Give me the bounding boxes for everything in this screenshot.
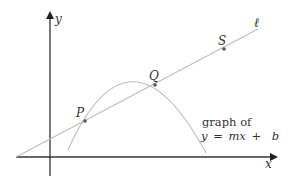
coordinate-diagram: y x ℓ P Q S graph of y = mx + b: [0, 0, 288, 180]
y-axis-label: y: [54, 12, 62, 26]
line-l-label: ℓ: [254, 15, 260, 30]
annotation-line2: y = mx + b: [200, 129, 279, 143]
annotation-line1: graph of: [202, 115, 252, 129]
point-p-label: P: [75, 106, 85, 120]
equation-y: y: [200, 129, 208, 143]
equation-equals: =: [213, 129, 223, 143]
equation-plus: +: [252, 129, 262, 143]
equation-b: b: [272, 129, 279, 143]
equation-mx: mx: [228, 129, 246, 143]
x-axis-label: x: [265, 157, 272, 171]
point-q-marker: [153, 83, 157, 87]
point-q-label: Q: [149, 69, 159, 83]
point-s-label: S: [218, 34, 226, 48]
